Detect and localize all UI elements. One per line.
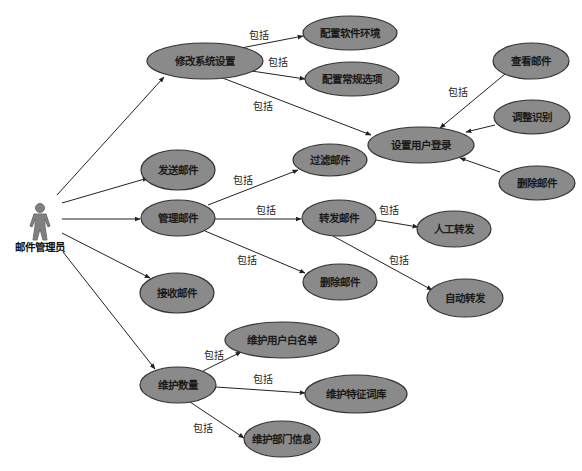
relationship-edge <box>466 125 495 132</box>
include-label: 包括 <box>204 349 224 361</box>
relationship-edge: 包括 <box>208 170 298 205</box>
edge-line <box>236 36 303 49</box>
include-label: 包括 <box>249 29 269 41</box>
use-case-label: 配置软件环境 <box>320 27 381 39</box>
use-case-maintain-whitelist[interactable]: 维护用户白名单 <box>225 322 339 358</box>
use-case-view-mail[interactable]: 查看邮件 <box>493 43 569 79</box>
use-case-manage-mail[interactable]: 管理邮件 <box>141 200 215 236</box>
actor-label: 邮件管理员 <box>15 241 66 253</box>
include-label: 包括 <box>233 174 253 186</box>
use-case-label: 接收邮件 <box>157 287 198 299</box>
edge-line <box>376 220 418 227</box>
use-case-label: 自动转发 <box>445 292 486 304</box>
use-case-label: 发送邮件 <box>157 164 199 176</box>
actor-mail-admin[interactable]: 邮件管理员 <box>15 204 66 254</box>
include-label: 包括 <box>268 56 288 68</box>
include-label: 包括 <box>379 204 399 216</box>
include-label: 包括 <box>237 254 257 266</box>
use-case-label: 维护数量 <box>158 379 199 391</box>
use-case-adjust-recognition[interactable]: 调整识别 <box>494 100 570 134</box>
relationship-edge: 包括 <box>190 402 244 438</box>
use-case-forward-mail[interactable]: 转发邮件 <box>302 200 376 236</box>
use-case-label: 配置常规选项 <box>322 73 383 85</box>
use-case-maintain-data[interactable]: 维护数量 <box>140 367 216 403</box>
edge-line <box>205 231 305 273</box>
relationship-edge: 包括 <box>205 231 305 273</box>
use-case-delete-mail-right[interactable]: 删除邮件 <box>499 166 575 200</box>
use-case-delete-mail-mid[interactable]: 删除邮件 <box>303 264 377 300</box>
use-case-label: 维护部门信息 <box>252 433 313 445</box>
use-cases-layer: 修改系统设置配置软件环境配置常规选项查看邮件调整识别设置用户登录删除邮件发送邮件… <box>140 16 575 457</box>
use-case-label: 设置用户登录 <box>391 139 452 151</box>
use-case-config-general-options[interactable]: 配置常规选项 <box>305 62 399 96</box>
relationship-edge <box>63 252 155 369</box>
relationship-edge: 包括 <box>203 349 241 371</box>
actor-stick-figure-icon <box>30 204 50 241</box>
use-case-filter-mail[interactable]: 过滤邮件 <box>293 144 367 176</box>
use-case-label: 查看邮件 <box>510 55 552 67</box>
edge-line <box>62 233 150 278</box>
use-case-label: 维护用户白名单 <box>247 334 318 346</box>
include-label: 包括 <box>193 422 213 434</box>
relationship-edge <box>62 178 148 203</box>
use-case-label: 删除邮件 <box>517 177 558 189</box>
relationship-edge <box>460 158 500 172</box>
use-case-manual-forward[interactable]: 人工转发 <box>417 211 491 247</box>
use-case-label: 转发邮件 <box>319 212 360 224</box>
edge-line <box>216 387 305 393</box>
use-case-modify-settings[interactable]: 修改系统设置 <box>147 43 263 79</box>
edge-line <box>460 158 500 172</box>
relationship-edge <box>62 233 150 278</box>
include-label: 包括 <box>448 86 468 98</box>
relationship-edge: 包括 <box>236 29 303 49</box>
use-case-send-mail[interactable]: 发送邮件 <box>141 150 215 190</box>
use-case-config-software-env[interactable]: 配置软件环境 <box>303 16 397 50</box>
relationship-edge: 包括 <box>215 204 301 219</box>
use-case-maintain-keywords[interactable]: 维护特征词库 <box>305 375 407 413</box>
include-label: 包括 <box>389 254 409 266</box>
include-label: 包括 <box>256 204 276 216</box>
edge-line <box>63 252 155 369</box>
use-case-label: 删除邮件 <box>320 276 361 288</box>
edge-line <box>466 125 495 132</box>
use-case-label: 调整识别 <box>512 111 552 123</box>
use-case-receive-mail[interactable]: 接收邮件 <box>140 273 214 313</box>
use-case-auto-forward[interactable]: 自动转发 <box>427 279 503 317</box>
include-label: 包括 <box>253 100 273 112</box>
use-case-diagram: 包括包括包括包括包括包括包括包括包括包括包括包括 修改系统设置配置软件环境配置常… <box>0 0 582 471</box>
use-case-label: 过滤邮件 <box>310 154 351 166</box>
relationship-edge: 包括 <box>376 204 418 227</box>
use-case-set-user-login[interactable]: 设置用户登录 <box>368 127 474 163</box>
use-case-label: 维护特征词库 <box>326 388 387 400</box>
use-case-label: 人工转发 <box>434 223 475 235</box>
edge-line <box>62 178 148 203</box>
use-case-label: 修改系统设置 <box>174 55 236 67</box>
edge-line <box>208 170 298 205</box>
relationship-edge: 包括 <box>216 373 305 393</box>
use-case-maintain-dept-info[interactable]: 维护部门信息 <box>244 421 320 457</box>
include-label: 包括 <box>253 373 273 385</box>
use-case-label: 管理邮件 <box>158 212 199 224</box>
